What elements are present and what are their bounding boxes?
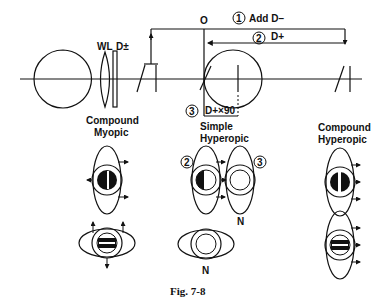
group1-title-line1: Compound [86, 115, 139, 126]
neutral-label-bottom: N [202, 265, 209, 276]
figure-caption: Fig. 7-8 [170, 285, 206, 297]
group3-title-line2: Hyperopic [318, 134, 367, 145]
origin-label: O [200, 15, 208, 26]
step1-text: Add D− [249, 13, 284, 24]
d-plus-minus-label: D± [116, 41, 129, 52]
group3-title-line1: Compound [318, 122, 371, 133]
reflex-compound-myopic-horizontal [79, 222, 135, 268]
wl-label: WL [97, 41, 113, 52]
svg-text:3: 3 [257, 157, 263, 168]
group1-title-line2: Myopic [94, 127, 129, 138]
svg-text:2: 2 [184, 157, 190, 168]
step1-number: 1 [236, 13, 242, 24]
reflex-simple-hyperopic-step2: 2 [181, 146, 226, 214]
reflex-simple-hyperopic-step3: 3 N [225, 146, 266, 227]
step3-text: D+×90 [205, 105, 235, 116]
step2-text: D+ [271, 31, 284, 42]
step2-number: 2 [256, 33, 262, 44]
neutral-label-top: N [237, 216, 244, 227]
group2-title-line2: Hyperopic [200, 133, 249, 144]
optics-diagram: WL D± O 1 Add D− 2 D+ 3 D+×90 Compound M… [0, 0, 386, 306]
reflex-compound-hyperopic-horizontal [325, 211, 360, 279]
reflex-compound-myopic-vertical [87, 146, 128, 214]
step3-number: 3 [189, 106, 195, 117]
reflex-compound-hyperopic-vertical [325, 148, 360, 216]
group2-title-line1: Simple [200, 121, 233, 132]
reflex-simple-hyperopic-horizontal-neutral: N [178, 229, 234, 276]
